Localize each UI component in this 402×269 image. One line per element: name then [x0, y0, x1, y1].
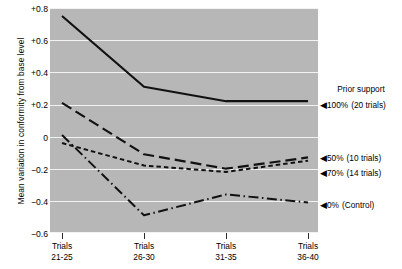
y-tick-label: 0 — [8, 133, 48, 143]
y-tick-label: +0.4 — [8, 68, 48, 78]
legend-percent: 50% — [327, 153, 344, 163]
y-tick-label: +0.8 — [8, 4, 48, 14]
legend-item-50: ◀50%(10 trials) — [320, 153, 402, 163]
legend-title: Prior support — [320, 84, 402, 94]
legend-item-0: ◀0%(Control) — [320, 200, 402, 210]
x-label-line1: Trials — [191, 241, 261, 252]
x-label-line1: Trials — [109, 241, 179, 252]
series-lines — [50, 8, 318, 233]
legend-detail: (10 trials) — [344, 153, 382, 163]
x-tick-mark — [62, 233, 63, 239]
series-line-0 — [62, 135, 308, 215]
y-axis-tick-labels: +0.8 +0.6 +0.4 +0.2 0 −0.2 −0.4 −0.6 — [4, 0, 48, 269]
legend-detail: (20 trials) — [348, 100, 386, 110]
plot-area — [50, 8, 318, 233]
x-label-line2: 26-30 — [109, 252, 179, 263]
series-line-70 — [62, 143, 308, 172]
legend-item-70: ◀70%(14 trials) — [320, 168, 402, 178]
y-tick-label: −0.2 — [8, 165, 48, 175]
legend-detail: (Control) — [339, 200, 374, 210]
left-arrow-icon: ◀ — [320, 200, 327, 210]
legend-percent: 100% — [327, 100, 348, 110]
x-tick-mark — [308, 233, 309, 239]
x-axis-label-3: Trials 31-35 — [191, 241, 261, 263]
x-axis-label-1: Trials 21-25 — [27, 241, 97, 263]
legend-percent: 70% — [327, 168, 344, 178]
left-arrow-icon: ◀ — [320, 153, 327, 163]
y-tick-label: +0.2 — [8, 100, 48, 110]
x-tick-mark — [144, 233, 145, 239]
legend: Prior support ◀100%(20 trials) ◀50%(10 t… — [320, 0, 402, 269]
legend-item-100: ◀100%(20 trials) — [320, 100, 402, 110]
x-axis-label-2: Trials 26-30 — [109, 241, 179, 263]
legend-percent: 0% — [327, 200, 339, 210]
x-label-line2: 31-35 — [191, 252, 261, 263]
left-arrow-icon: ◀ — [320, 168, 327, 178]
x-tick-mark — [226, 233, 227, 239]
legend-detail: (14 trials) — [344, 168, 382, 178]
left-arrow-icon: ◀ — [320, 100, 327, 110]
chart-figure: Mean variation in conformity from base l… — [0, 0, 402, 269]
y-tick-label: −0.4 — [8, 197, 48, 207]
x-label-line1: Trials — [27, 241, 97, 252]
series-line-50 — [62, 103, 308, 169]
series-line-100 — [62, 16, 308, 101]
x-label-line2: 21-25 — [27, 252, 97, 263]
y-tick-label: +0.6 — [8, 36, 48, 46]
y-tick-label: −0.6 — [8, 229, 48, 239]
